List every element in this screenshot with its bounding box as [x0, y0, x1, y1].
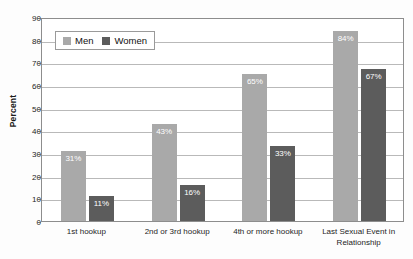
bar-value-label: 65% [242, 77, 267, 86]
x-tick-label: Last Sexual Event in Relationship [313, 226, 404, 248]
bar-women: 11% [89, 196, 114, 221]
bar-value-label: 16% [180, 188, 205, 197]
chart-legend: MenWomen [55, 31, 155, 50]
bar-women: 16% [180, 185, 205, 221]
bar-value-label: 31% [61, 154, 86, 163]
bar-women: 67% [361, 69, 386, 221]
bar-men: 84% [333, 31, 358, 221]
bar-men: 65% [242, 74, 267, 221]
legend-label: Women [114, 35, 147, 46]
y-tick-label: 10 [5, 195, 41, 204]
bar-value-label: 67% [361, 72, 386, 81]
y-tick-label: 60 [5, 82, 41, 91]
y-tick-mark [37, 222, 41, 223]
y-axis-ticks: 9080706050403020100 [0, 18, 41, 222]
bar-value-label: 43% [152, 127, 177, 136]
bar-men: 43% [152, 124, 177, 221]
x-axis-labels: 1st hookup2nd or 3rd hookup4th or more h… [41, 226, 404, 259]
legend-entry-men[interactable]: Men [63, 35, 93, 46]
legend-entry-women[interactable]: Women [102, 35, 147, 46]
legend-swatch-women [102, 37, 110, 45]
y-tick-label: 20 [5, 172, 41, 181]
y-tick-label: 40 [5, 127, 41, 136]
legend-label: Men [75, 35, 93, 46]
bar-chart: Percent 9080706050403020100 31%11%43%16%… [0, 0, 413, 259]
legend-swatch-men [63, 37, 71, 45]
x-tick-label: 1st hookup [41, 226, 132, 237]
bar-men: 31% [61, 151, 86, 221]
y-tick-label: 90 [5, 14, 41, 23]
y-tick-label: 80 [5, 36, 41, 45]
bar-women: 33% [270, 146, 295, 221]
bar-value-label: 84% [333, 34, 358, 43]
y-tick-label: 30 [5, 150, 41, 159]
bar-value-label: 33% [270, 149, 295, 158]
y-tick-label: 70 [5, 59, 41, 68]
y-tick-label: 50 [5, 104, 41, 113]
x-tick-label: 2nd or 3rd hookup [132, 226, 223, 237]
bar-value-label: 11% [89, 199, 114, 208]
y-tick-label: 0 [5, 218, 41, 227]
x-tick-label: 4th or more hookup [223, 226, 314, 237]
